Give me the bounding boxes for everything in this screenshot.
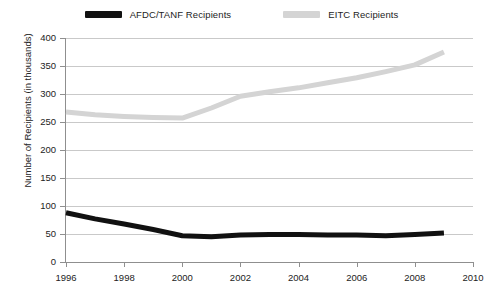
series-line-afdc-tanf <box>66 213 444 237</box>
series-line-eitc <box>66 52 444 118</box>
